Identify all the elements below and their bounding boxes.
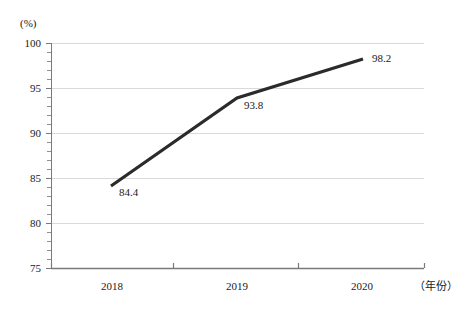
x-category-label-2018: 2018 [101, 280, 124, 292]
data-label-2019: 93.8 [244, 99, 264, 111]
y-tick-label-85: 85 [30, 172, 42, 184]
y-axis-unit-label: (%) [20, 17, 37, 30]
y-tick-label-75: 75 [30, 262, 42, 274]
chart-canvas: (%) 100 95 90 85 80 75 2018 2019 2020 （年… [0, 0, 468, 313]
y-tick-label-80: 80 [30, 217, 42, 229]
data-label-2018: 84.4 [119, 186, 139, 198]
line-chart: (%) 100 95 90 85 80 75 2018 2019 2020 （年… [0, 0, 468, 313]
x-category-label-2019: 2019 [226, 280, 249, 292]
y-tick-label-95: 95 [30, 82, 42, 94]
x-axis-title: （年份） [414, 279, 458, 292]
y-tick-label-90: 90 [30, 127, 42, 139]
x-category-label-2020: 2020 [351, 280, 374, 292]
chart-background [0, 0, 468, 313]
y-tick-label-100: 100 [25, 37, 42, 49]
data-label-2020: 98.2 [372, 52, 391, 64]
